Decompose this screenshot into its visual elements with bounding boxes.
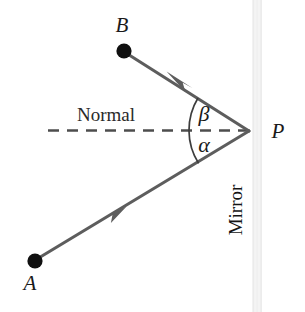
angle-alpha-label: α	[198, 132, 210, 157]
reflection-diagram: A B P Normal β α Mirror	[0, 0, 305, 312]
point-a-dot	[27, 253, 42, 268]
point-a-label: A	[22, 271, 37, 295]
normal-label: Normal	[77, 104, 135, 125]
point-p-label: P	[271, 119, 285, 143]
mirror-label: Mirror	[225, 184, 246, 235]
point-b-dot	[116, 43, 131, 58]
point-b-label: B	[116, 13, 129, 37]
mirror-surface-band	[253, 0, 263, 312]
angle-beta-label: β	[198, 101, 210, 126]
